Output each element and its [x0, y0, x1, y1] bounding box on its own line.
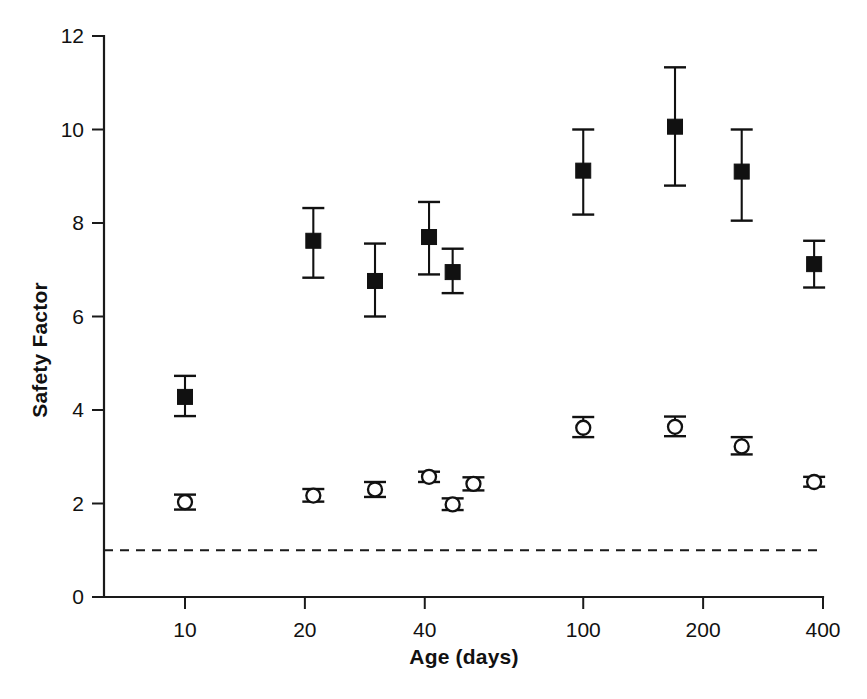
axes-group — [92, 36, 823, 609]
y-tick-label-8: 8 — [72, 211, 84, 234]
data-point — [731, 437, 753, 454]
data-point — [364, 482, 386, 497]
data-point — [572, 417, 594, 437]
x-axis-ticks — [185, 597, 823, 609]
data-series-group — [174, 67, 825, 511]
marker-filled-square — [668, 119, 683, 134]
y-tick-label-6: 6 — [72, 305, 84, 328]
y-axis-ticks — [92, 36, 104, 597]
y-tick-label-2: 2 — [72, 492, 84, 515]
x-tick-label-group: 102040100200400 — [173, 618, 840, 641]
marker-open-circle — [446, 497, 460, 511]
y-axis-title: Safety Factor — [28, 282, 52, 418]
data-point — [803, 475, 825, 489]
marker-open-circle — [466, 477, 480, 491]
data-point — [731, 130, 753, 221]
x-tick-label-40: 40 — [413, 618, 436, 641]
y-tick-label-10: 10 — [61, 118, 84, 141]
x-tick-label-200: 200 — [686, 618, 721, 641]
data-point — [418, 470, 440, 484]
series-open-circle-series — [174, 417, 825, 512]
marker-open-circle — [735, 439, 749, 453]
data-point — [418, 202, 440, 274]
marker-open-circle — [576, 421, 590, 435]
x-tick-label-20: 20 — [293, 618, 316, 641]
x-tick-label-400: 400 — [805, 618, 840, 641]
data-point — [442, 497, 464, 511]
data-point — [302, 489, 324, 503]
data-point — [664, 67, 686, 185]
x-tick-label-10: 10 — [173, 618, 196, 641]
marker-open-circle — [306, 489, 320, 503]
chart-figure: 024681012 102040100200400 Safety Factor … — [0, 0, 867, 699]
x-tick-label-100: 100 — [566, 618, 601, 641]
marker-open-circle — [807, 475, 821, 489]
marker-filled-square — [368, 273, 383, 288]
marker-filled-square — [445, 265, 460, 280]
y-tick-label-4: 4 — [72, 398, 84, 421]
marker-open-circle — [668, 420, 682, 434]
marker-filled-square — [734, 164, 749, 179]
scatter-plot-canvas: 024681012 102040100200400 — [0, 0, 867, 699]
data-point — [462, 477, 484, 491]
marker-open-circle — [178, 495, 192, 509]
data-point — [174, 495, 196, 510]
x-axis-title: Age (days) — [409, 645, 518, 668]
x-axis-title-wrapper: Age (days) — [104, 645, 824, 669]
data-point — [364, 244, 386, 317]
series-filled-square-series — [174, 67, 825, 416]
data-point — [572, 130, 594, 215]
data-point — [302, 208, 324, 278]
marker-filled-square — [807, 257, 822, 272]
y-tick-label-12: 12 — [61, 24, 84, 47]
data-point — [442, 249, 464, 293]
marker-filled-square — [422, 230, 437, 245]
y-tick-label-0: 0 — [72, 585, 84, 608]
marker-filled-square — [576, 163, 591, 178]
data-point — [803, 241, 825, 288]
marker-open-circle — [368, 482, 382, 496]
data-point — [664, 417, 686, 437]
marker-filled-square — [306, 233, 321, 248]
y-axis-title-wrapper: Safety Factor — [10, 240, 70, 460]
marker-filled-square — [178, 389, 193, 404]
data-point — [174, 376, 196, 416]
marker-open-circle — [422, 470, 436, 484]
